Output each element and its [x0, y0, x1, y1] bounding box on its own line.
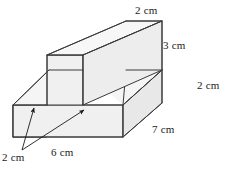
stem-front-face [47, 55, 83, 105]
dim-label-base-thickness: 2 cm [2, 152, 25, 163]
dim-label-depth: 7 cm [152, 124, 175, 135]
dim-label-base-width: 6 cm [51, 147, 74, 158]
base-front-face [13, 105, 123, 137]
figure-canvas: 2 cm 3 cm 2 cm 7 cm 6 cm 2 cm [0, 0, 232, 171]
dim-label-base-height: 2 cm [197, 80, 220, 91]
dim-label-top-width: 2 cm [135, 5, 158, 16]
dim-label-stem-height: 3 cm [163, 40, 186, 51]
